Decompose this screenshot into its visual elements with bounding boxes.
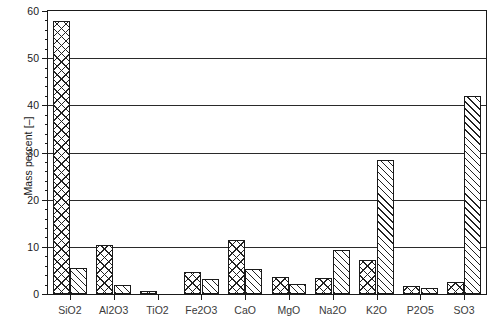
bar-SiO2-series-1 — [53, 21, 70, 294]
x-axis-label-P2O5: P2O5 — [407, 305, 434, 316]
x-axis-label-SO3: SO3 — [454, 305, 475, 316]
y-tick-minor — [45, 96, 49, 97]
x-axis-label-MgO: MgO — [278, 305, 301, 316]
y-tick-minor — [45, 181, 49, 182]
x-tick-SO3 — [464, 294, 465, 300]
y-tick-minor — [45, 68, 49, 69]
y-tick-50 — [42, 58, 48, 59]
gridline-50 — [48, 58, 486, 59]
y-tick-label-50: 50 — [27, 53, 39, 64]
bar-Na2O-series-2 — [333, 250, 350, 294]
x-axis-label-Fe2O3: Fe2O3 — [185, 305, 217, 316]
bar-Al2O3-series-2 — [114, 285, 131, 294]
y-tick-minor — [45, 228, 49, 229]
bar-SO3-series-1 — [447, 282, 464, 294]
y-tick-minor — [45, 190, 49, 191]
gridline-30 — [48, 153, 486, 154]
x-tick-MgO — [289, 294, 290, 300]
bar-chart-figure: Mass percent [–] 0102030405060SiO2Al2O3T… — [0, 0, 495, 333]
x-tick-Na2O — [333, 294, 334, 300]
bar-Fe2O3-series-1 — [184, 272, 201, 294]
bar-CaO-series-1 — [228, 240, 245, 294]
plot-area: 0102030405060SiO2Al2O3TiO2Fe2O3CaOMgONa2… — [47, 10, 487, 295]
x-axis-label-K2O: K2O — [366, 305, 387, 316]
x-tick-P2O5 — [420, 294, 421, 300]
bar-K2O-series-2 — [377, 160, 394, 294]
y-tick-minor — [45, 209, 49, 210]
y-tick-minor — [45, 171, 49, 172]
y-tick-minor — [45, 49, 49, 50]
x-tick-TiO2 — [158, 294, 159, 300]
y-tick-minor — [45, 237, 49, 238]
y-tick-minor — [45, 124, 49, 125]
gridline-40 — [48, 105, 486, 106]
bar-TiO2-series-1 — [140, 291, 157, 294]
gridline-20 — [48, 200, 486, 201]
y-tick-20 — [42, 200, 48, 201]
y-tick-minor — [45, 77, 49, 78]
gridline-10 — [48, 247, 486, 248]
y-tick-minor — [45, 285, 49, 286]
y-tick-0 — [42, 294, 48, 295]
y-tick-label-20: 20 — [27, 194, 39, 205]
y-tick-minor — [45, 219, 49, 220]
y-tick-label-40: 40 — [27, 100, 39, 111]
x-tick-SiO2 — [70, 294, 71, 300]
y-tick-minor — [45, 115, 49, 116]
bar-P2O5-series-1 — [403, 286, 420, 294]
x-tick-Al2O3 — [114, 294, 115, 300]
bar-MgO-series-2 — [289, 284, 306, 294]
y-tick-minor — [45, 143, 49, 144]
bar-Al2O3-series-1 — [96, 245, 113, 294]
x-axis-label-Na2O: Na2O — [319, 305, 346, 316]
bar-SiO2-series-2 — [70, 268, 87, 294]
bar-MgO-series-1 — [272, 277, 289, 294]
bar-P2O5-series-2 — [421, 288, 438, 294]
y-tick-minor — [45, 266, 49, 267]
x-tick-Fe2O3 — [201, 294, 202, 300]
bar-Fe2O3-series-2 — [202, 279, 219, 294]
y-tick-minor — [45, 39, 49, 40]
y-tick-60 — [42, 11, 48, 12]
y-tick-minor — [45, 20, 49, 21]
x-tick-K2O — [377, 294, 378, 300]
bar-K2O-series-1 — [359, 260, 376, 294]
bar-Na2O-series-1 — [315, 278, 332, 295]
y-tick-minor — [45, 256, 49, 257]
y-tick-30 — [42, 153, 48, 154]
x-axis-label-SiO2: SiO2 — [58, 305, 81, 316]
y-tick-minor — [45, 86, 49, 87]
x-axis-label-TiO2: TiO2 — [146, 305, 168, 316]
y-tick-minor — [45, 162, 49, 163]
bar-CaO-series-2 — [245, 269, 262, 294]
y-tick-10 — [42, 247, 48, 248]
y-tick-label-30: 30 — [27, 147, 39, 158]
y-tick-40 — [42, 105, 48, 106]
x-axis-label-CaO: CaO — [234, 305, 256, 316]
y-tick-label-10: 10 — [27, 242, 39, 253]
y-tick-label-60: 60 — [27, 6, 39, 17]
y-tick-label-0: 0 — [33, 289, 39, 300]
x-tick-CaO — [245, 294, 246, 300]
x-axis-label-Al2O3: Al2O3 — [99, 305, 128, 316]
y-tick-minor — [45, 275, 49, 276]
bar-SO3-series-2 — [464, 96, 481, 294]
y-tick-minor — [45, 134, 49, 135]
y-tick-minor — [45, 30, 49, 31]
